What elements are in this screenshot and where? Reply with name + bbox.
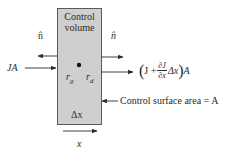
box-title-line2: volume xyxy=(61,23,98,33)
center-point xyxy=(77,63,81,67)
outflow-expression: (J +∂J∂xΔx)A xyxy=(139,61,190,80)
width-label: Δx xyxy=(71,110,82,120)
surface-area-label: Control surface area = A xyxy=(120,96,218,106)
partial-derivative: ∂J∂x xyxy=(157,61,167,80)
right-normal-label: n̂ xyxy=(111,31,116,41)
destruction-rate-label: rd xyxy=(86,72,93,86)
left-normal-label: n̂ xyxy=(38,31,43,41)
box-title-line1: Control xyxy=(63,12,96,22)
generation-rate-label: rg xyxy=(66,72,73,86)
x-axis-label: x xyxy=(77,139,81,149)
arrows-layer xyxy=(0,0,234,151)
inflow-label: JA xyxy=(7,63,18,73)
